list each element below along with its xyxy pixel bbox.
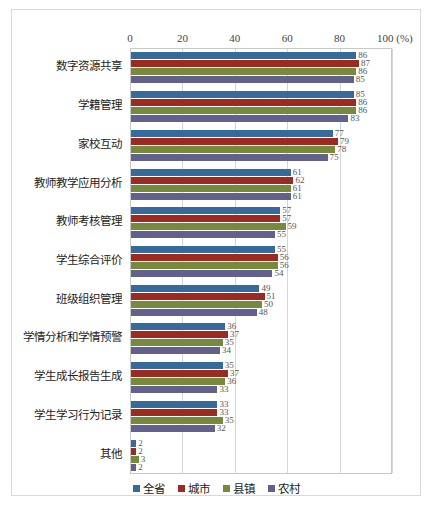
bar-row: 56 <box>131 262 391 269</box>
bar-row: 32 <box>131 425 391 432</box>
bar[interactable] <box>131 169 291 176</box>
bar-row: 2 <box>131 464 391 471</box>
bar[interactable] <box>131 254 278 261</box>
bar-row: 51 <box>131 293 391 300</box>
x-tick-label: 0 <box>127 31 133 45</box>
bar[interactable] <box>131 76 354 83</box>
bar[interactable] <box>131 193 291 200</box>
bar[interactable] <box>131 91 354 98</box>
y-axis-label: 学籍管理 <box>78 99 122 112</box>
y-axis-category-labels: 数字资源共享学籍管理家校互动教师教学应用分析教师考核管理学生综合评价班级组织管理… <box>12 48 126 474</box>
bar[interactable] <box>131 301 262 308</box>
bar-group: 57575955 <box>131 207 391 239</box>
legend-item[interactable]: 农村 <box>268 480 300 496</box>
bar-row: 35 <box>131 362 391 369</box>
bar-row: 48 <box>131 309 391 316</box>
bar[interactable] <box>131 409 217 416</box>
bar-group: 55565654 <box>131 246 391 278</box>
bar[interactable] <box>131 185 291 192</box>
bar[interactable] <box>131 99 356 106</box>
bar[interactable] <box>131 270 272 277</box>
bar[interactable] <box>131 285 259 292</box>
bar-group: 77797875 <box>131 130 391 162</box>
bar-row: 75 <box>131 154 391 161</box>
bar-group: 86878685 <box>131 52 391 84</box>
bar[interactable] <box>131 107 356 114</box>
bar-value-label: 55 <box>275 229 286 239</box>
bar-row: 62 <box>131 177 391 184</box>
legend-swatch-icon <box>133 485 140 492</box>
bar[interactable] <box>131 401 217 408</box>
legend-item[interactable]: 全省 <box>133 480 165 496</box>
bar-group: 36373534 <box>131 323 391 355</box>
bar[interactable] <box>131 215 280 222</box>
bar-row: 55 <box>131 231 391 238</box>
bar[interactable] <box>131 138 338 145</box>
y-axis-label: 学生学习行为记录 <box>34 409 122 422</box>
bar[interactable] <box>131 68 356 75</box>
bar[interactable] <box>131 309 257 316</box>
bar[interactable] <box>131 130 333 137</box>
bar[interactable] <box>131 347 220 354</box>
x-tick-label: 100 (%) <box>377 31 413 45</box>
bar[interactable] <box>131 362 223 369</box>
bar[interactable] <box>131 417 223 424</box>
bar-row: 85 <box>131 91 391 98</box>
bar[interactable] <box>131 146 335 153</box>
legend-item[interactable]: 城市 <box>178 480 210 496</box>
bar[interactable] <box>131 378 225 385</box>
y-axis-label: 教师考核管理 <box>56 215 122 228</box>
plot-area: 8687868585868683777978756162616157575955… <box>130 48 392 474</box>
bar-group: 49515048 <box>131 285 391 317</box>
bar-row: 33 <box>131 409 391 416</box>
bar[interactable] <box>131 223 286 230</box>
bar[interactable] <box>131 246 275 253</box>
bar-row: 2 <box>131 448 391 455</box>
x-tick-label: 20 <box>177 31 188 45</box>
bar[interactable] <box>131 115 348 122</box>
bar-value-label: 32 <box>215 423 226 433</box>
bar[interactable] <box>131 207 280 214</box>
bar[interactable] <box>131 60 359 67</box>
x-tick-label: 80 <box>334 31 345 45</box>
bar[interactable] <box>131 154 328 161</box>
bar[interactable] <box>131 177 293 184</box>
bar[interactable] <box>131 231 275 238</box>
bar[interactable] <box>131 262 278 269</box>
bar[interactable] <box>131 386 217 393</box>
bar-group: 35373633 <box>131 362 391 394</box>
y-axis-label: 班级组织管理 <box>56 293 122 306</box>
bar-row: 49 <box>131 285 391 292</box>
bar[interactable] <box>131 370 228 377</box>
x-axis-tick-labels: 020406080100 (%) <box>130 31 392 47</box>
bar-value-label: 2 <box>136 462 143 472</box>
y-axis-label: 其他 <box>100 448 122 461</box>
bar-value-label: 83 <box>348 113 359 123</box>
bar-row: 55 <box>131 246 391 253</box>
bar[interactable] <box>131 331 228 338</box>
bar-row: 34 <box>131 347 391 354</box>
legend-label: 全省 <box>143 480 165 496</box>
y-axis-label: 学生综合评价 <box>56 254 122 267</box>
bar-row: 59 <box>131 223 391 230</box>
bar-value-label: 85 <box>354 74 365 84</box>
bar-value-label: 75 <box>328 152 339 162</box>
bar[interactable] <box>131 323 225 330</box>
bar-row: 57 <box>131 215 391 222</box>
bar[interactable] <box>131 52 356 59</box>
bar-row: 77 <box>131 130 391 137</box>
bar-row: 2 <box>131 440 391 447</box>
bar-row: 57 <box>131 207 391 214</box>
bar[interactable] <box>131 425 215 432</box>
legend-swatch-icon <box>268 485 275 492</box>
legend-swatch-icon <box>178 485 185 492</box>
bar-row: 86 <box>131 52 391 59</box>
y-axis-label: 数字资源共享 <box>56 60 122 73</box>
bar[interactable] <box>131 339 223 346</box>
legend-item[interactable]: 县镇 <box>223 480 255 496</box>
bar-group: 85868683 <box>131 91 391 123</box>
bar-row: 3 <box>131 456 391 463</box>
bar-row: 78 <box>131 146 391 153</box>
bar-row: 36 <box>131 323 391 330</box>
bar[interactable] <box>131 293 265 300</box>
